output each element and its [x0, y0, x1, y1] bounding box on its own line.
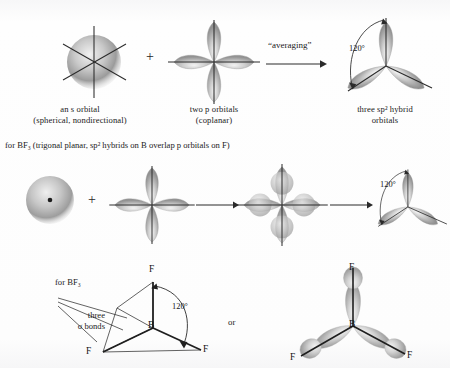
figure-canvas: + “averaging” [0, 0, 450, 368]
row2-arrow-1 [196, 200, 240, 210]
caption-sp2-hybrids-line1: three sp² hybrid [320, 104, 450, 115]
bf3b-ligand-f-left: F [290, 352, 295, 362]
angle-label-row2: 120° [380, 180, 396, 189]
bf3-skeletal-structure [95, 262, 255, 366]
sigma-bonds-label: three σ bonds [55, 310, 105, 332]
caption-sp2-hybrids: three sp² hybrid orbitals [320, 104, 450, 126]
row3-heading: for BF₃ [55, 277, 81, 288]
averaging-label: “averaging” [268, 40, 311, 50]
angle-label-row3: 120° [172, 302, 188, 311]
sp2-hybrid-figure [340, 18, 440, 104]
plus-sign-row2: + [88, 192, 96, 208]
caption-s-orbital-line1: an s orbital [10, 104, 150, 115]
row2-heading: for BF₃ (trigonal planar, sp² hybrids on… [5, 140, 230, 151]
bf3-ligand-f-right: F [203, 344, 208, 354]
caption-p-orbitals: two p orbitals (coplanar) [149, 104, 279, 126]
s-orbital-figure [58, 22, 146, 102]
sp2-hybrid-figure-row2 [372, 162, 450, 244]
caption-sp2-hybrids-line2: orbitals [320, 115, 450, 126]
plus-sign-row1: + [146, 49, 154, 65]
caption-p-orbitals-line1: two p orbitals [149, 104, 279, 115]
s-orbital-filled-figure [20, 170, 84, 232]
or-connector: or [228, 317, 235, 327]
caption-s-orbital: an s orbital (spherical, nondirectional) [10, 104, 150, 126]
bf3-center-atom-b: B [148, 320, 154, 330]
sigma-bonds-label-line2: σ bonds [55, 321, 105, 332]
row2-arrow-2 [330, 200, 374, 210]
bf3-ligand-f-left: F [86, 346, 91, 356]
caption-p-orbitals-line2: (coplanar) [149, 115, 279, 126]
bf3b-ligand-f-top: F [349, 262, 354, 272]
bf3b-ligand-f-right: F [407, 350, 412, 360]
bf3-orbital-overlap-structure [295, 262, 445, 366]
caption-s-orbital-line2: (spherical, nondirectional) [10, 115, 150, 126]
angle-label-row1: 120° [349, 44, 365, 53]
bf3-ligand-f-top: F [149, 264, 154, 274]
sigma-bonds-label-line1: three [55, 310, 105, 321]
s-p-combined-figure [236, 164, 328, 246]
bf3b-center-atom-b: B [349, 319, 355, 329]
averaging-arrow [266, 58, 328, 70]
p-orbitals-figure [168, 20, 260, 104]
p-orbitals-figure-row2 [108, 166, 196, 244]
